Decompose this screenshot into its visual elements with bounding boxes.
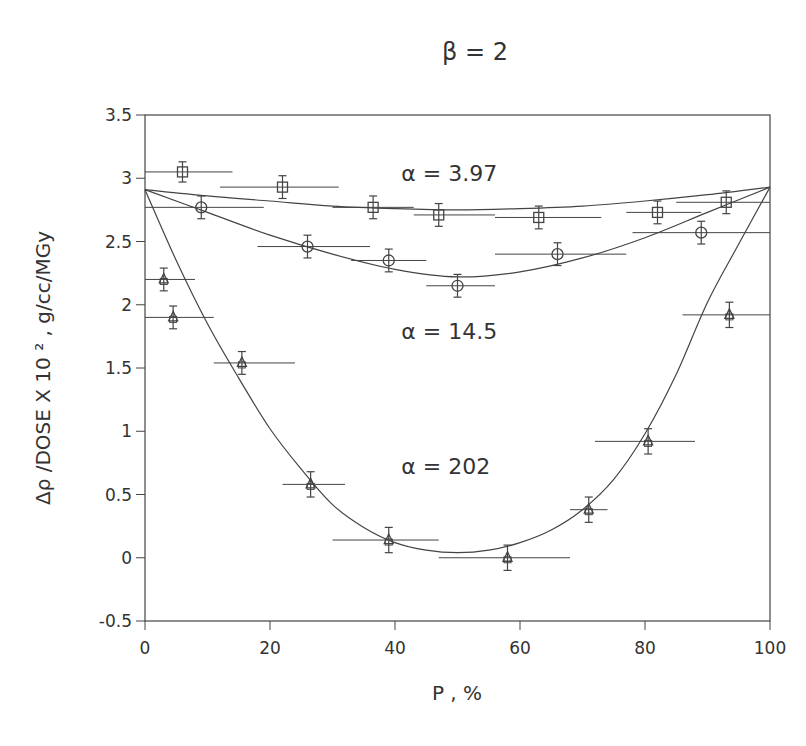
data-point bbox=[145, 162, 233, 182]
data-point bbox=[414, 204, 495, 227]
y-tick-label: 0.5 bbox=[105, 485, 132, 505]
y-axis-label: Δρ /DOSE X 10 ² , g/cc/MGy bbox=[31, 231, 55, 505]
data-point bbox=[495, 243, 626, 266]
data-point bbox=[595, 429, 695, 454]
alpha-annotation: α = 202 bbox=[401, 454, 490, 479]
annotations: α = 3.97α = 14.5α = 202 bbox=[401, 161, 497, 479]
alpha-annotation: α = 3.97 bbox=[401, 161, 497, 186]
fit-curve bbox=[145, 187, 770, 553]
x-tick-label: 60 bbox=[509, 638, 531, 658]
data-point bbox=[439, 545, 570, 570]
x-tick-label: 80 bbox=[634, 638, 656, 658]
x-tick-label: 100 bbox=[754, 638, 786, 658]
data-point bbox=[220, 176, 339, 199]
fit-curve bbox=[145, 187, 770, 210]
fit-curve bbox=[145, 187, 770, 277]
data-point bbox=[351, 249, 426, 272]
data-point bbox=[214, 352, 295, 375]
data-point bbox=[283, 472, 346, 497]
x-axis-label: P , % bbox=[432, 681, 482, 705]
data-point bbox=[426, 274, 495, 297]
x-tick-label: 0 bbox=[140, 638, 151, 658]
data-point bbox=[570, 497, 608, 522]
data-point bbox=[258, 235, 371, 258]
data-point bbox=[683, 302, 771, 327]
data-point bbox=[495, 206, 601, 229]
y-tick-label: 2 bbox=[121, 295, 132, 315]
data-point bbox=[333, 527, 439, 552]
y-tick-label: 1 bbox=[121, 421, 132, 441]
x-tick-label: 40 bbox=[384, 638, 406, 658]
data-point bbox=[145, 268, 195, 291]
data-point bbox=[626, 201, 701, 224]
chart: β = 2 020406080100 -0.500.511.522.533.5 … bbox=[0, 0, 806, 746]
x-axis: 020406080100 bbox=[140, 621, 787, 658]
chart-title: β = 2 bbox=[442, 38, 508, 66]
fit-curves bbox=[145, 187, 770, 553]
y-tick-label: 2.5 bbox=[105, 232, 132, 252]
x-tick-label: 20 bbox=[259, 638, 281, 658]
data-points bbox=[145, 162, 770, 571]
alpha-annotation: α = 14.5 bbox=[401, 319, 497, 344]
y-tick-label: 1.5 bbox=[105, 358, 132, 378]
y-tick-label: 0 bbox=[121, 548, 132, 568]
data-point bbox=[145, 306, 214, 329]
y-tick-label: 3 bbox=[121, 168, 132, 188]
y-axis: -0.500.511.522.533.5 bbox=[99, 105, 145, 631]
data-point bbox=[676, 191, 770, 214]
y-tick-label: 3.5 bbox=[105, 105, 132, 125]
data-point bbox=[333, 196, 414, 219]
y-tick-label: -0.5 bbox=[99, 611, 132, 631]
